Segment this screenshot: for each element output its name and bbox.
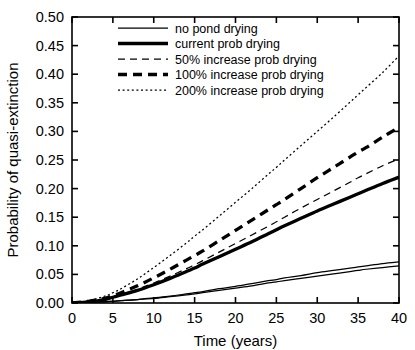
chart-figure: 05101520253035400.000.050.100.150.200.25… [0,0,415,350]
x-tick-label: 20 [227,310,243,326]
y-tick-label: 0.30 [36,123,64,139]
x-tick-label: 25 [268,310,284,326]
x-axis-label: Time (years) [194,332,278,349]
legend-label-5: 200% increase prob drying [175,84,324,98]
x-tick-label: 35 [350,310,366,326]
x-tick-label: 0 [68,310,76,326]
legend-label-3: 50% increase prob drying [175,53,317,67]
legend-label-2: current prob drying [175,37,280,51]
x-tick-label: 40 [391,310,407,326]
quasi-extinction-probability-chart: 05101520253035400.000.050.100.150.200.25… [0,0,415,350]
y-tick-label: 0.45 [36,38,64,54]
y-tick-label: 0.05 [36,266,64,282]
x-tick-label: 15 [187,310,203,326]
y-tick-label: 0.10 [36,238,64,254]
y-tick-label: 0.35 [36,95,64,111]
y-tick-label: 0.40 [36,66,64,82]
y-tick-label: 0.15 [36,209,64,225]
legend-label-4: 100% increase prob drying [175,68,324,82]
x-tick-label: 30 [309,310,325,326]
x-tick-label: 10 [146,310,162,326]
y-tick-label: 0.25 [36,152,64,168]
x-tick-label: 5 [109,310,117,326]
y-tick-label: 0.20 [36,181,64,197]
legend-label-1: no pond drying [175,22,258,36]
y-axis-label: Probability of quasi-extinction [4,62,21,257]
y-tick-label: 0.00 [36,295,64,311]
y-tick-label: 0.50 [36,9,64,25]
